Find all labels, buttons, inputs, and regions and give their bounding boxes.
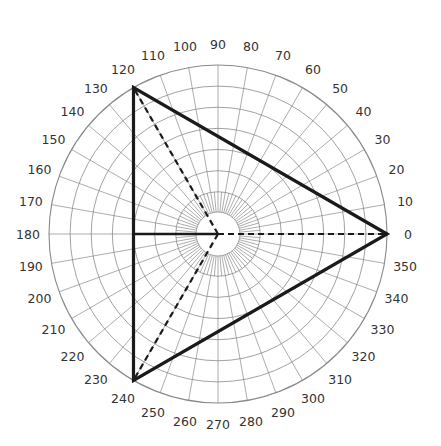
angle-label: 170 — [19, 194, 43, 209]
grid-spoke — [89, 125, 202, 219]
grid-spoke — [52, 205, 197, 231]
angle-label: 110 — [141, 48, 165, 63]
angle-label: 320 — [352, 349, 376, 364]
grid-spoke — [72, 245, 199, 319]
angle-label: 180 — [16, 227, 40, 242]
angle-label: 150 — [42, 132, 66, 147]
grid-spoke — [176, 236, 196, 238]
angle-label: 240 — [111, 391, 135, 406]
angle-label: 350 — [393, 259, 417, 274]
angle-label: 20 — [389, 162, 405, 177]
angle-label: 270 — [206, 417, 230, 432]
grid-spoke — [232, 105, 326, 218]
grid-spoke — [188, 204, 202, 218]
angle-label: 0 — [404, 227, 412, 242]
angle-label: 160 — [28, 162, 52, 177]
triangle-construction — [134, 88, 388, 381]
angle-label: 60 — [305, 62, 321, 77]
grid-spoke — [237, 245, 364, 319]
grid-spoke — [239, 242, 377, 292]
angle-label: 340 — [385, 291, 409, 306]
grid-spoke — [220, 256, 222, 276]
angle-label: 210 — [42, 322, 66, 337]
grid-spoke — [160, 255, 210, 393]
grid-spoke — [72, 150, 199, 224]
grid-spoke — [239, 176, 377, 226]
angle-label: 220 — [61, 349, 85, 364]
grid-spoke — [234, 250, 248, 264]
grid-spoke — [234, 204, 248, 218]
grid-spoke — [237, 150, 364, 224]
grid-spoke — [220, 192, 222, 212]
grid-spoke — [176, 230, 196, 232]
grid-spoke — [89, 248, 202, 342]
grid-spoke — [232, 251, 326, 364]
angle-label: 30 — [375, 132, 391, 147]
angle-label: 260 — [173, 414, 197, 429]
grid-spoke — [235, 248, 348, 342]
angle-label: 90 — [210, 37, 226, 52]
angle-label: 290 — [271, 405, 295, 420]
angle-label: 120 — [111, 62, 135, 77]
grid-spoke — [240, 238, 385, 264]
angle-label: 300 — [301, 391, 325, 406]
grid-spoke — [214, 192, 216, 212]
angle-label: 310 — [328, 372, 352, 387]
grid-spoke — [59, 242, 197, 292]
angle-label: 50 — [332, 81, 348, 96]
grid-spoke — [214, 256, 216, 276]
angle-label: 200 — [28, 291, 52, 306]
angle-label: 80 — [243, 39, 259, 54]
angle-label: 280 — [239, 414, 263, 429]
grid-spoke — [52, 238, 197, 264]
angle-label: 130 — [84, 81, 108, 96]
angle-label: 70 — [275, 48, 291, 63]
angle-label: 40 — [356, 104, 372, 119]
angle-label: 250 — [141, 405, 165, 420]
angle-label: 330 — [371, 322, 395, 337]
angle-label: 190 — [19, 259, 43, 274]
grid-spoke — [188, 250, 202, 264]
grid-spoke — [240, 205, 385, 231]
grid-spoke — [160, 75, 210, 213]
grid-spoke — [235, 125, 348, 219]
grid-spoke — [240, 230, 260, 232]
angle-label: 10 — [397, 194, 413, 209]
grid-spoke — [229, 88, 303, 215]
grid-spoke — [59, 176, 197, 226]
grid-spoke — [229, 253, 303, 380]
angle-label: 140 — [61, 104, 85, 119]
angle-label: 100 — [173, 39, 197, 54]
angle-label: 230 — [84, 372, 108, 387]
grid-spoke — [240, 236, 260, 238]
polar-diagram: 0102030405060708090100110120130140150160… — [0, 0, 441, 446]
